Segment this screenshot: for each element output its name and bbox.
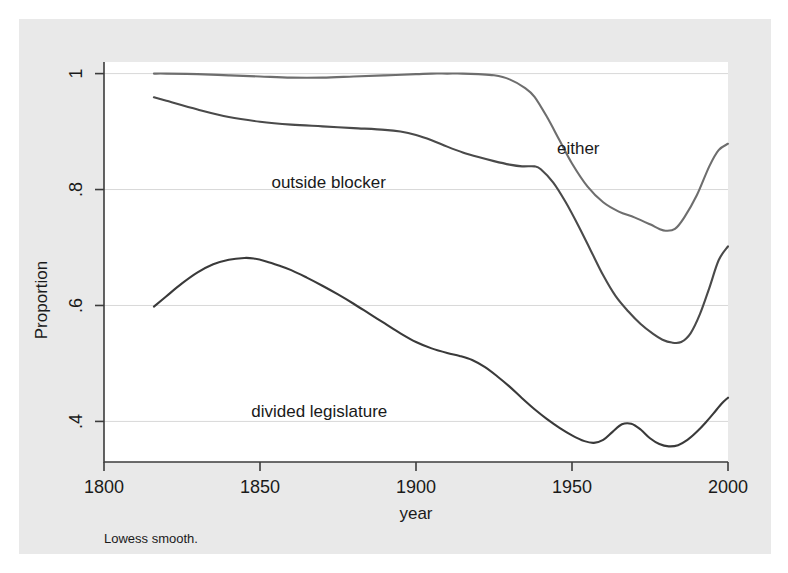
y-tick-label: 1 xyxy=(66,69,86,79)
y-axis-ticks xyxy=(95,74,104,422)
y-axis-tick-labels: .4.6.81 xyxy=(66,69,86,429)
x-axis-ticks xyxy=(104,462,728,471)
y-tick-label: .8 xyxy=(66,182,86,197)
chart-note: Lowess smooth. xyxy=(104,531,198,546)
y-tick-label: .6 xyxy=(66,298,86,313)
series-label-either: either xyxy=(557,139,600,158)
x-tick-label: 2000 xyxy=(708,477,748,497)
x-tick-label: 1900 xyxy=(396,477,436,497)
x-axis-title: year xyxy=(399,504,432,523)
x-tick-label: 1800 xyxy=(84,477,124,497)
series-label-divided-legislature: divided legislature xyxy=(251,402,387,421)
x-tick-label: 1850 xyxy=(240,477,280,497)
y-axis-title: Proportion xyxy=(32,261,51,339)
x-tick-label: 1950 xyxy=(552,477,592,497)
plot-area xyxy=(104,62,728,462)
x-axis-tick-labels: 18001850190019502000 xyxy=(84,477,748,497)
y-tick-label: .4 xyxy=(66,414,86,429)
lowess-smooth-chart: .4.6.81 18001850190019502000 eitheroutsi… xyxy=(0,0,788,573)
series-label-outside-blocker: outside blocker xyxy=(271,173,386,192)
